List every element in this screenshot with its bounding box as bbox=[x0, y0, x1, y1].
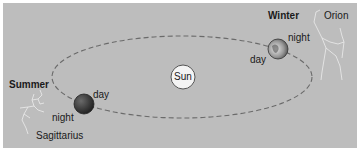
winter-day-label: day bbox=[250, 55, 266, 65]
sagittarius-constellation-icon bbox=[20, 90, 44, 134]
summer-label: Summer bbox=[9, 80, 49, 90]
sagittarius-label: Sagittarius bbox=[36, 131, 83, 141]
winter-label: Winter bbox=[268, 11, 299, 21]
earth-summer-icon bbox=[74, 94, 94, 114]
orion-label: Orion bbox=[324, 11, 348, 21]
winter-night-label: night bbox=[288, 33, 310, 43]
summer-day-label: day bbox=[93, 90, 109, 100]
summer-night-label: night bbox=[52, 113, 74, 123]
sun-label: Sun bbox=[174, 72, 192, 82]
